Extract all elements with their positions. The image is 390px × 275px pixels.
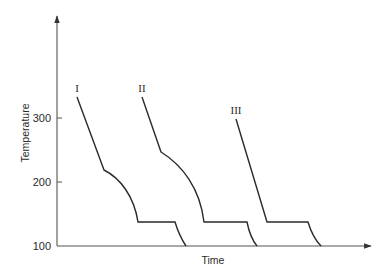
curve-label-I: I [75, 82, 79, 94]
curve-II [142, 97, 257, 246]
cooling-curves-chart: 300 200 100 Temperature Time I II III [0, 0, 390, 275]
y-tick-label-300: 300 [33, 112, 51, 124]
y-tick-label-100: 100 [33, 240, 51, 252]
curve-label-III: III [231, 104, 242, 116]
curve-label-II: II [138, 82, 146, 94]
y-tick-label-200: 200 [33, 176, 51, 188]
x-axis-title: Time [202, 254, 225, 266]
y-axis-title: Temperature [19, 103, 31, 162]
curve-I [77, 97, 186, 246]
